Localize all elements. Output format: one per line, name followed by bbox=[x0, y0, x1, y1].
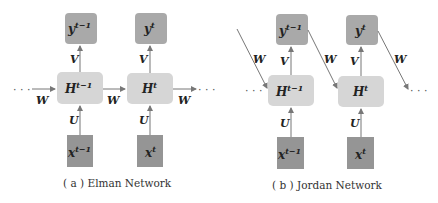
jordan-v-label-prev: V bbox=[280, 55, 290, 68]
elman-w-label-out: W bbox=[178, 94, 192, 107]
jordan-u-label-prev: U bbox=[280, 117, 291, 130]
jordan-w-label-out: W bbox=[394, 53, 408, 66]
jordan-ellipsis-right: · · · bbox=[410, 84, 427, 97]
jordan-u-label-cur: U bbox=[350, 117, 361, 130]
jordan-network: · · · · · · V V U U W W W yt−1 yt Ht−1 H… bbox=[237, 14, 427, 191]
rnn-diagram: · · · · · · V V U U W W W yt−1 yt Ht−1 H… bbox=[0, 0, 438, 203]
jordan-caption: ( b ) Jordan Network bbox=[272, 179, 383, 191]
jordan-w-label-in: W bbox=[253, 53, 267, 66]
elman-u-label-cur: U bbox=[139, 114, 150, 127]
jordan-ellipsis-left: · · · bbox=[245, 84, 262, 97]
elman-w-label-mid: W bbox=[107, 94, 121, 107]
elman-w-label-in: W bbox=[36, 94, 50, 107]
elman-u-label-prev: U bbox=[69, 114, 80, 127]
elman-v-label-cur: V bbox=[139, 53, 149, 66]
elman-ellipsis-left: · · · bbox=[13, 83, 30, 96]
elman-v-label-prev: V bbox=[70, 53, 80, 66]
jordan-w-label-mid: W bbox=[324, 53, 338, 66]
elman-caption: ( a ) Elman Network bbox=[63, 177, 172, 189]
elman-ellipsis-right: · · · bbox=[198, 83, 215, 96]
jordan-v-label-cur: V bbox=[350, 55, 360, 68]
elman-network: · · · · · · V V U U W W W yt−1 yt Ht−1 H… bbox=[13, 13, 215, 189]
